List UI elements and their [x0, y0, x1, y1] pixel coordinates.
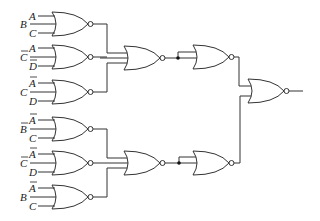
input-label-d: D	[28, 166, 37, 178]
nor-gate-3: A C D	[20, 77, 93, 107]
input-label-a-bar: A	[28, 77, 36, 89]
junction-dot	[176, 56, 180, 60]
nor-inverter-8	[165, 45, 234, 69]
input-label-b-bar: B	[20, 123, 27, 135]
wires-bottom-group	[93, 129, 128, 197]
nor-gate-5: A C D	[20, 148, 93, 178]
input-label-c: C	[29, 200, 37, 212]
nor-gate-2: A C D	[20, 42, 93, 72]
input-label-b: B	[20, 191, 27, 203]
nor-gate-9	[124, 151, 165, 175]
nor-gate-1: A B C	[20, 10, 93, 39]
input-label-a: A	[28, 10, 36, 22]
nor-inverter-10	[165, 151, 234, 175]
input-label-a-bar: A	[28, 182, 36, 194]
input-label-a-bar: A	[28, 114, 36, 126]
input-label-a: A	[28, 42, 36, 54]
input-label-d: D	[28, 95, 37, 107]
nor-gate-4: A B C	[20, 114, 93, 144]
input-label-c: C	[29, 132, 37, 144]
input-label-c: C	[20, 86, 28, 98]
input-label-c-bar: C	[20, 51, 28, 63]
input-label-a-bar: A	[28, 148, 36, 160]
input-label-c: C	[29, 27, 37, 39]
nor-gate-6: A B C	[20, 182, 93, 212]
wires-top-group	[93, 24, 128, 92]
junction-dot	[177, 161, 181, 165]
logic-circuit-diagram: A B C A C D A C D A B C	[0, 0, 320, 221]
input-label-d-bar: D	[28, 60, 37, 72]
output-nor-gate-11	[234, 57, 303, 163]
nor-gate-7	[124, 46, 165, 70]
input-label-c-bar: C	[20, 157, 28, 169]
input-label-b: B	[20, 18, 27, 30]
